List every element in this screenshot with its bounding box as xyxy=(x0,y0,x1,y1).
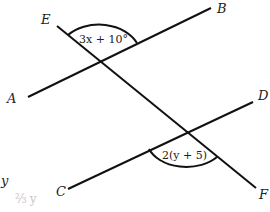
label-c: C xyxy=(56,184,66,199)
label-e: E xyxy=(40,12,51,27)
angle-label-top: 3x + 10° xyxy=(79,33,128,46)
label-f: F xyxy=(258,187,269,202)
faint-fraction: ⅔ xyxy=(15,192,27,206)
label-a: A xyxy=(6,91,16,106)
label-b: B xyxy=(216,1,227,16)
margin-variable-y: y xyxy=(0,173,9,188)
faint-y: y xyxy=(29,192,37,206)
transversal-ef xyxy=(57,26,256,188)
angle-label-bottom: 2(y + 5) xyxy=(162,149,207,162)
line-ab xyxy=(28,8,211,97)
label-d: D xyxy=(257,88,269,103)
geometry-diagram: E B A D C F 3x + 10° 2(y + 5) y ⅔y xyxy=(0,0,270,212)
line-cd xyxy=(68,102,253,189)
margin-faint-note: ⅔y xyxy=(15,192,37,206)
